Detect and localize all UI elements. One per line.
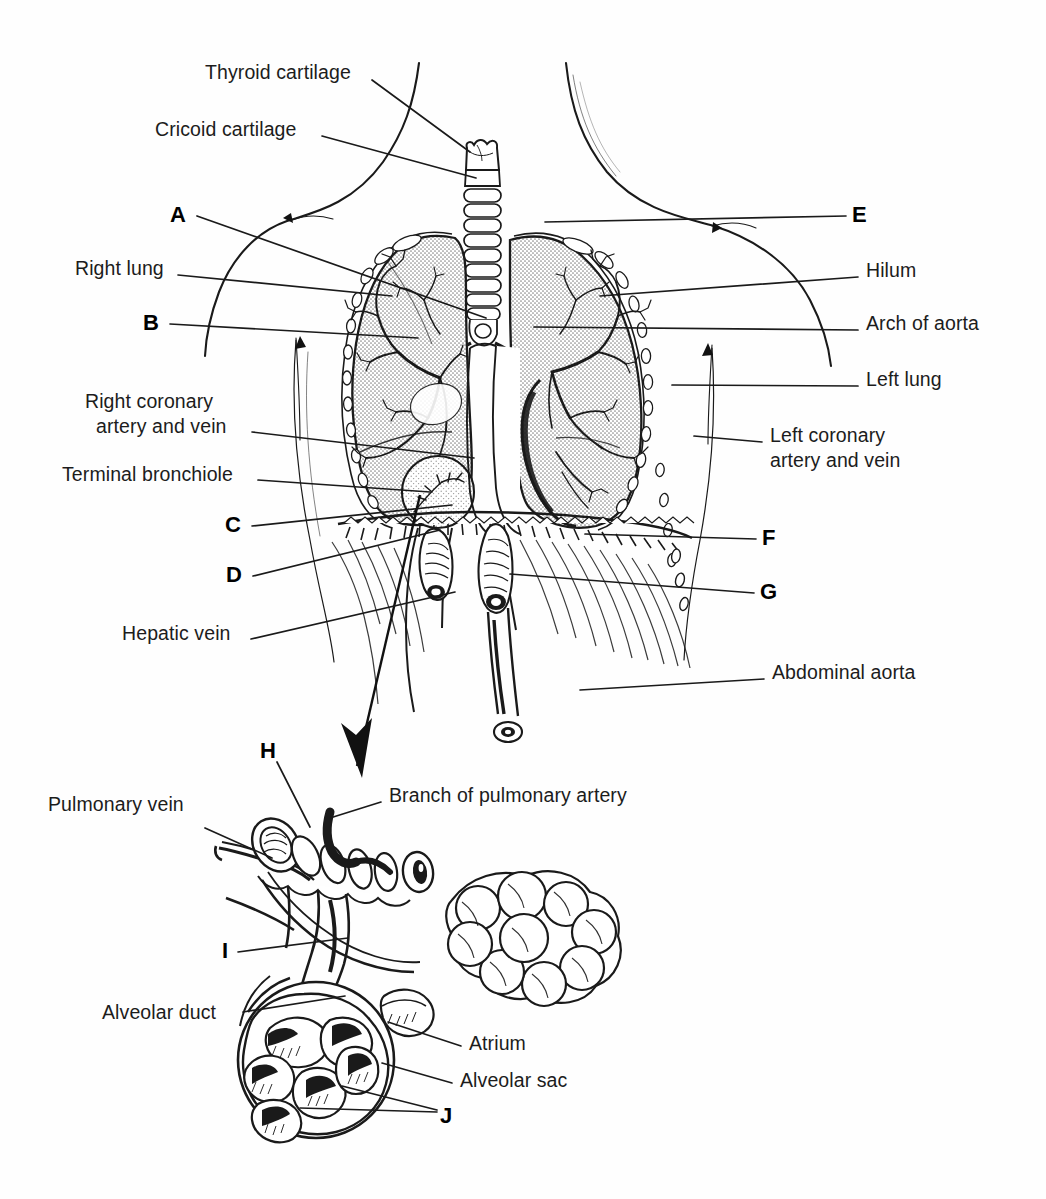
leader-line <box>372 80 470 152</box>
leader-line <box>251 592 455 639</box>
label-hepatic-vein: Hepatic vein <box>122 621 231 646</box>
upper-key-e: E <box>852 202 867 228</box>
upper-key-d: D <box>226 562 242 588</box>
leader-line <box>322 136 476 178</box>
upper-key-g: G <box>760 579 777 605</box>
label-alveolar-sac: Alveolar sac <box>460 1068 567 1093</box>
leader-line <box>178 275 392 296</box>
great-vessels <box>420 524 690 742</box>
leader-line <box>600 277 858 296</box>
figure-canvas: Thyroid cartilageCricoid cartilageRight … <box>0 0 1046 1199</box>
lower-key-j: J <box>440 1103 453 1129</box>
label-right-coronary: Right coronary artery and vein <box>85 389 227 439</box>
label-left-coronary: Left coronary artery and vein <box>770 423 901 473</box>
label-arch-of-aorta: Arch of aorta <box>866 311 979 336</box>
label-alveolar-duct: Alveolar duct <box>102 1000 216 1025</box>
upper-key-c: C <box>225 512 241 538</box>
upper-key-a: A <box>170 202 186 228</box>
label-terminal-bronchiole: Terminal bronchiole <box>62 462 233 487</box>
lower-key-i: I <box>222 938 228 964</box>
label-right-lung: Right lung <box>75 256 164 281</box>
lower-key-h: H <box>260 738 276 764</box>
label-pulmonary-vein: Pulmonary vein <box>48 792 184 817</box>
alveolar-cluster-upper <box>446 871 621 1006</box>
leader-line <box>330 802 381 818</box>
label-cricoid-cartilage: Cricoid cartilage <box>155 117 297 142</box>
label-thyroid-cartilage: Thyroid cartilage <box>205 60 351 85</box>
leader-line <box>672 385 858 386</box>
label-left-lung: Left lung <box>866 367 942 392</box>
right-lung <box>342 232 474 528</box>
leader-line <box>694 436 762 442</box>
leader-line <box>580 679 764 690</box>
label-abdominal-aorta: Abdominal aorta <box>772 660 916 685</box>
upper-key-b: B <box>143 310 159 336</box>
label-hilum: Hilum <box>866 258 916 283</box>
label-atrium: Atrium <box>469 1031 526 1056</box>
upper-key-f: F <box>762 525 776 551</box>
label-branch-of-pulmonary-artery: Branch of pulmonary artery <box>389 783 627 808</box>
leader-line <box>510 574 754 593</box>
leader-line <box>277 762 310 827</box>
